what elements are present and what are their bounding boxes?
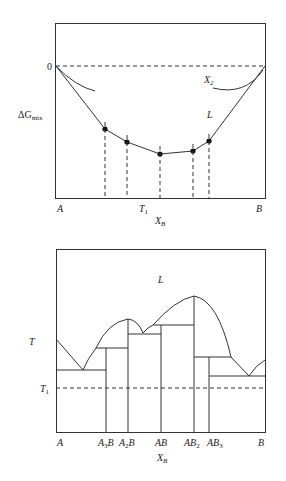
liquid-label-bottom: L <box>157 274 164 285</box>
compound-label-a2b: A2B <box>118 437 135 450</box>
x2-label: X2 <box>203 74 214 87</box>
compound-label-a: A <box>56 437 64 448</box>
t1-label-bottom: T1 <box>40 383 50 396</box>
y-axis-label: ΔGmix <box>18 109 43 122</box>
compound-label-ab3: AB3 <box>206 437 223 450</box>
a-label-top: A <box>56 203 64 214</box>
compound-label-ab: AB <box>154 437 167 448</box>
compound-label-ab2: AB2 <box>183 437 200 450</box>
b-label-top: B <box>256 203 262 214</box>
t-axis-label: T <box>29 336 36 347</box>
left-phase-curve <box>56 66 95 91</box>
zero-label: 0 <box>47 61 52 72</box>
xb-label-top: XB <box>154 215 166 228</box>
free-energy-panel: 0 ΔGmix X2 L A B T1 XB <box>18 24 266 229</box>
phase-diagram-panel: L T T1 A A3B A2B AB AB2 AB3 B XB <box>29 250 266 466</box>
t1-label-top: T1 <box>139 203 149 216</box>
liquid-label-top: L <box>206 109 213 120</box>
convex-hull <box>56 66 265 154</box>
x2-phase-curve <box>213 70 263 90</box>
top-panel-frame <box>56 24 266 199</box>
compound-label-a3b: A3B <box>97 437 114 450</box>
compound-label-b: B <box>258 437 264 448</box>
xb-label-bottom: XB <box>156 452 168 465</box>
phase-diagram: 0 ΔGmix X2 L A B T1 XB L T T1 A A3B A <box>0 0 286 481</box>
